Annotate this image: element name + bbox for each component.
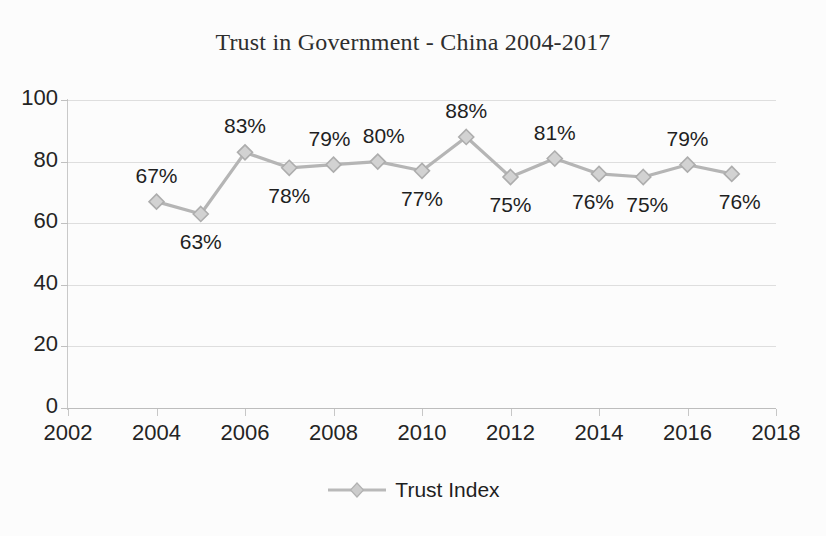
y-tick-mark-20 (61, 346, 68, 347)
x-axis-label-2014: 2014 (575, 420, 624, 446)
data-point-marker (326, 157, 341, 172)
y-axis-label-0: 0 (0, 393, 58, 419)
data-label-2016: 79% (666, 127, 708, 151)
x-axis-label-2006: 2006 (221, 420, 270, 446)
data-point-marker (415, 163, 430, 178)
gridline-40 (68, 285, 776, 286)
y-tick-mark-0 (61, 408, 68, 409)
x-tick-mark-2010 (422, 409, 423, 416)
data-label-2013: 81% (534, 121, 576, 145)
gridline-20 (68, 346, 776, 347)
x-tick-mark-2004 (157, 409, 158, 416)
x-tick-mark-2016 (688, 409, 689, 416)
y-tick-mark-100 (61, 100, 68, 101)
chart-legend: Trust Index (0, 478, 826, 502)
x-tick-mark-2002 (68, 409, 69, 416)
legend-label-trust-index: Trust Index (395, 478, 499, 502)
data-point-marker (193, 206, 208, 221)
y-tick-mark-40 (61, 285, 68, 286)
data-point-marker (636, 170, 651, 185)
y-axis-label-40: 40 (0, 270, 58, 296)
data-label-2009: 80% (363, 124, 405, 148)
x-axis-label-2008: 2008 (309, 420, 358, 446)
y-axis-label-20: 20 (0, 331, 58, 357)
data-label-2004: 67% (135, 164, 177, 188)
data-label-2008: 79% (308, 127, 350, 151)
x-tick-mark-2006 (245, 409, 246, 416)
data-label-2007: 78% (268, 184, 310, 208)
x-tick-mark-2014 (599, 409, 600, 416)
data-label-2010: 77% (401, 187, 443, 211)
chart-title: Trust in Government - China 2004-2017 (0, 29, 826, 56)
data-point-marker (149, 194, 164, 209)
series-plot (0, 0, 826, 536)
data-point-marker (459, 129, 474, 144)
data-label-2015: 75% (626, 193, 668, 217)
data-point-marker (503, 170, 518, 185)
data-point-marker (238, 145, 253, 160)
x-tick-mark-2008 (334, 409, 335, 416)
y-tick-mark-60 (61, 223, 68, 224)
y-axis-label-80: 80 (0, 147, 58, 173)
gridline-60 (68, 223, 776, 224)
x-axis-label-2012: 2012 (486, 420, 535, 446)
diamond-marker-icon (326, 481, 388, 499)
y-axis-line (67, 99, 68, 410)
data-point-marker (547, 151, 562, 166)
y-tick-mark-80 (61, 162, 68, 163)
data-label-2006: 83% (224, 114, 266, 138)
gridline-100 (68, 100, 776, 101)
x-axis-label-2004: 2004 (132, 420, 181, 446)
data-label-2005: 63% (180, 230, 222, 254)
x-tick-mark-2018 (776, 409, 777, 416)
x-axis-label-2002: 2002 (44, 420, 93, 446)
y-axis-label-60: 60 (0, 208, 58, 234)
y-axis-label-100: 100 (0, 85, 58, 111)
data-point-marker (724, 166, 739, 181)
data-label-2017: 76% (719, 190, 761, 214)
x-axis-label-2010: 2010 (398, 420, 447, 446)
data-point-marker (680, 157, 695, 172)
x-tick-mark-2012 (511, 409, 512, 416)
x-axis-label-2018: 2018 (752, 420, 801, 446)
data-point-marker (592, 166, 607, 181)
chart-container: Trust in Government - China 2004-2017 02… (0, 0, 826, 536)
data-label-2011: 88% (445, 99, 487, 123)
data-label-2014: 76% (572, 190, 614, 214)
x-axis-label-2016: 2016 (663, 420, 712, 446)
data-label-2012: 75% (489, 193, 531, 217)
